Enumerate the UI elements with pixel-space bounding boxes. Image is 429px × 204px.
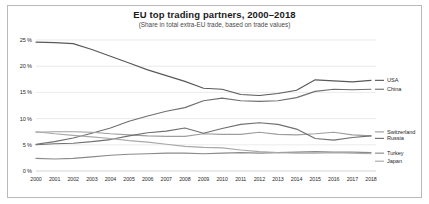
x-axis-tick-label: 2000 [30,176,41,182]
legend-swatches [375,80,384,161]
x-axis-tick-label: 2009 [198,176,209,182]
x-axis-tick-label: 2017 [347,176,358,182]
series-lines [36,42,371,159]
x-axis-tick-label: 2015 [309,176,320,182]
plot-area: 0 %5 %10 %15 %20 %25 % 20002001200220032… [0,0,429,204]
x-axis-tick-label: 2012 [254,176,265,182]
legend-label-russia: Russia [387,135,404,141]
legend-label-turkey: Turkey [387,150,404,156]
legend-label-japan: Japan [387,158,402,164]
x-axis-tick-label: 2010 [216,176,227,182]
y-axis-tick-label: 25 % [10,37,32,43]
x-axis-tick-label: 2002 [68,176,79,182]
x-axis-tick-label: 2005 [123,176,134,182]
x-axis-tick-label: 2003 [86,176,97,182]
y-axis-tick-label: 0 % [10,168,32,174]
series-line-switzerland [36,132,371,137]
x-axis-tick-label: 2001 [49,176,60,182]
x-axis-tick-label: 2006 [142,176,153,182]
y-axis-tick-label: 15 % [10,89,32,95]
legend-label-usa: USA [387,77,398,83]
y-axis-tick-label: 20 % [10,63,32,69]
x-axis-tick-label: 2016 [328,176,339,182]
y-axis-tick-label: 5 % [10,142,32,148]
chart-svg [0,0,429,204]
legend-label-switzerland: Switzerland [387,129,415,135]
x-axis-tick-label: 2008 [179,176,190,182]
x-axis-tick-label: 2018 [365,176,376,182]
chart-figure: EU top trading partners, 2000–2018 (Shar… [0,0,429,204]
series-line-usa [36,42,371,95]
x-axis-tick-label: 2014 [291,176,302,182]
x-axis-tick-label: 2013 [272,176,283,182]
x-axis-tick-label: 2004 [105,176,116,182]
legend-label-china: China [387,86,401,92]
x-axis-tick-label: 2011 [235,176,246,182]
x-axis-tick-label: 2007 [161,176,172,182]
y-axis-tick-label: 10 % [10,116,32,122]
